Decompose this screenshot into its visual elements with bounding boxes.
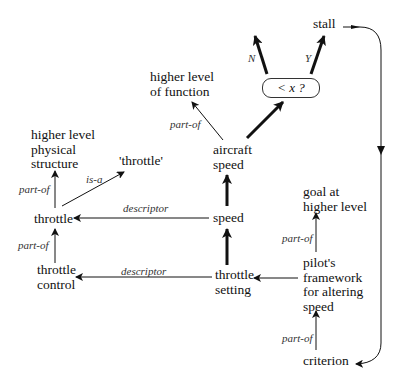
edge-label-descriptor-setting: descriptor: [121, 265, 166, 277]
loop-start-arrowhead: [351, 25, 360, 29]
node-line: of function: [150, 85, 214, 100]
node-line: pilot's: [303, 256, 363, 271]
edge-label-part-of-criterion: part-of: [282, 332, 313, 344]
loop-midpoint-arrowhead: [377, 146, 385, 155]
node-line: control: [37, 278, 76, 293]
node-criterion: criterion: [303, 354, 349, 369]
edge-label-part-of-function: part-of: [170, 118, 201, 130]
edge-label-part-of-control: part-of: [18, 239, 49, 251]
edge-decision-n: [255, 36, 267, 74]
edge-aircraft-speed-decision: [247, 102, 283, 138]
node-line: structure: [31, 157, 95, 172]
node-line: physical: [31, 143, 95, 158]
node-line: goal at: [303, 185, 367, 200]
node-higher-level-physical-structure: higher level physical structure: [31, 128, 95, 172]
edge-label-part-of-structure: part-of: [19, 183, 50, 195]
node-decision: < x ?: [262, 78, 320, 98]
edge-label-y: Y: [305, 52, 311, 64]
node-higher-level-function: higher level of function: [150, 70, 214, 99]
edge-label-is-a: is-a: [86, 173, 103, 185]
node-throttle: throttle: [34, 212, 73, 227]
edge-label-descriptor-speed: descriptor: [123, 202, 168, 214]
node-line: for altering: [303, 285, 363, 300]
node-line: throttle: [37, 263, 76, 278]
node-line: higher level: [31, 128, 95, 143]
node-line: framework: [303, 271, 363, 286]
node-throttle-quoted: 'throttle': [119, 154, 163, 169]
edge-decision-y: [311, 36, 324, 74]
node-line: throttle: [215, 268, 254, 283]
node-line: setting: [215, 283, 254, 298]
edge-label-part-of-goal: part-of: [282, 232, 313, 244]
node-line: speed: [213, 158, 252, 173]
node-line: higher level: [150, 70, 214, 85]
node-goal-higher-level: goal at higher level: [303, 185, 367, 214]
node-pilots-framework: pilot's framework for altering speed: [303, 256, 363, 314]
node-line: speed: [303, 300, 363, 315]
edge-label-n: N: [248, 52, 255, 64]
node-throttle-setting: throttle setting: [215, 268, 254, 297]
node-line: aircraft: [213, 143, 252, 158]
node-throttle-control: throttle control: [37, 263, 76, 292]
node-speed: speed: [213, 211, 244, 226]
node-aircraft-speed: aircraft speed: [213, 143, 252, 172]
node-line: higher level: [303, 200, 367, 215]
node-stall: stall: [313, 17, 336, 32]
